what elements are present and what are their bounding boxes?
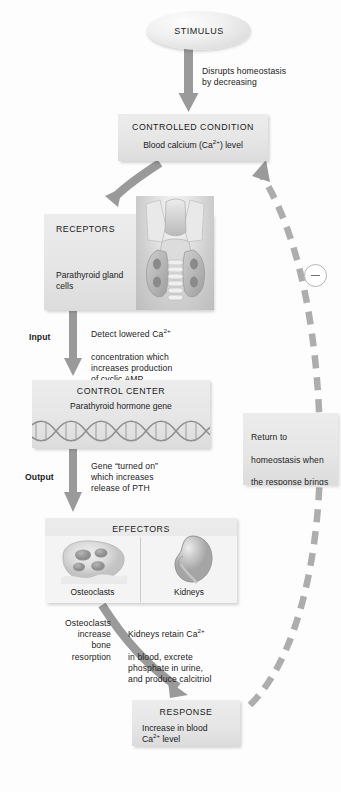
stimulus-label: STIMULUS <box>174 26 224 36</box>
arrow-stimulus-to-condition <box>179 49 199 112</box>
effector-note-left: Osteoclasts increase bone resorption <box>25 618 111 663</box>
output-label: Output <box>25 472 54 483</box>
return-note-line2: homeostasis when <box>251 455 324 465</box>
feedback-diagram-canvas: STIMULUS Disrupts homeostasis by decreas… <box>0 0 341 792</box>
return-note-text: Return to homeostasis when the response … <box>251 421 337 485</box>
response-detail: Increase in blood Ca2+ level <box>142 723 240 745</box>
effector-note-right-rest: in blood, excrete phosphate in urine, an… <box>128 652 211 684</box>
input-caption-sup: 2+ <box>163 327 170 334</box>
stimulus-node: STIMULUS <box>147 11 251 50</box>
return-note-line1: Return to <box>251 432 287 442</box>
control-center-detail: Parathyroid hormone gene <box>32 401 210 412</box>
controlled-condition-box: CONTROLLED CONDITION Blood calcium (Ca2+… <box>118 114 268 161</box>
effectors-header: EFFECTORS <box>45 524 237 534</box>
output-caption: Gene “turned on” which increases release… <box>91 461 211 495</box>
thyroid-parathyroid-illustration <box>136 196 214 310</box>
response-box: RESPONSE Increase in blood Ca2+ level <box>132 700 240 746</box>
effector-label-kidneys: Kidneys <box>141 587 237 597</box>
effector-note-right: Kidneys retain Ca2+ in blood, excrete ph… <box>128 618 248 685</box>
input-label: Input <box>29 332 51 343</box>
controlled-condition-detail: Blood calcium (Ca2+) level <box>118 140 268 151</box>
response-header: RESPONSE <box>132 707 240 717</box>
effectors-box: EFFECTORS <box>45 518 237 603</box>
input-caption: Detect lowered Ca2+ concentration which … <box>91 318 219 385</box>
effector-note-right-pre: Kidneys retain Ca <box>128 629 198 639</box>
condition-detail-post: ) level <box>220 140 243 150</box>
return-to-homeostasis-note: Return to homeostasis when the response … <box>243 413 338 485</box>
kidney-illustration <box>163 534 217 586</box>
control-center-header: CONTROL CENTER <box>32 386 210 396</box>
condition-detail-pre: Blood calcium (Ca <box>143 140 213 150</box>
condition-detail-sup: 2+ <box>213 138 220 145</box>
arrow-input <box>64 311 82 376</box>
control-center-box: CONTROL CENTER Parathyroid hormone gene <box>32 380 210 448</box>
stimulus-arrow-caption: Disrupts homeostasis by decreasing <box>202 66 332 88</box>
osteoclast-cell-illustration <box>55 538 131 584</box>
negative-feedback-sign <box>304 264 327 287</box>
return-note-line3: the response brings <box>251 477 328 485</box>
receptors-detail: Parathyroid gland cells <box>56 270 136 292</box>
dna-double-helix-illustration <box>32 416 210 446</box>
effector-label-osteoclasts: Osteoclasts <box>45 587 140 597</box>
minus-icon <box>311 275 320 276</box>
response-detail-post: level <box>160 734 180 744</box>
controlled-condition-header: CONTROLLED CONDITION <box>118 122 268 132</box>
response-detail-sup: 2+ <box>153 732 160 739</box>
effector-note-right-sup: 2+ <box>198 627 205 634</box>
arrow-output <box>64 449 82 512</box>
input-caption-pre: Detect lowered Ca <box>91 329 163 339</box>
